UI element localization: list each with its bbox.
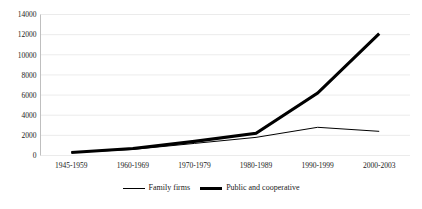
x-tick-labels: 1945-19591960-19691970-19791980-19891990… <box>55 161 396 170</box>
line-chart: 02000400060008000100001200014000 1945-19… <box>0 0 422 209</box>
x-tick-label: 1945-1959 <box>55 161 88 170</box>
gridlines <box>41 15 411 156</box>
legend-item-family-firms: Family firms <box>123 183 191 193</box>
series-line-public-and-cooperative <box>71 34 379 153</box>
x-tick-label: 1980-1989 <box>240 161 273 170</box>
x-tick-label: 1970-1979 <box>178 161 211 170</box>
y-tick-label: 14000 <box>18 10 37 19</box>
y-tick-label: 4000 <box>22 111 37 120</box>
legend-line-thick-icon <box>200 187 222 190</box>
legend-label-public-and-cooperative: Public and cooperative <box>226 183 299 193</box>
legend-label-family-firms: Family firms <box>149 183 191 193</box>
chart-legend: Family firms Public and cooperative <box>0 178 422 198</box>
series-lines <box>71 34 379 153</box>
y-tick-label: 2000 <box>22 131 37 140</box>
y-tick-label: 6000 <box>22 91 37 100</box>
y-tick-label: 12000 <box>18 30 37 39</box>
chart-canvas: 02000400060008000100001200014000 1945-19… <box>0 0 422 175</box>
y-tick-label: 8000 <box>22 71 37 80</box>
legend-line-thin-icon <box>123 188 145 189</box>
plot-area: 02000400060008000100001200014000 1945-19… <box>0 0 422 175</box>
legend-item-public-and-cooperative: Public and cooperative <box>200 183 299 193</box>
x-tick-label: 1990-1999 <box>301 161 334 170</box>
x-tick-label: 1960-1969 <box>117 161 150 170</box>
y-tick-label: 10000 <box>18 51 37 60</box>
y-tick-labels: 02000400060008000100001200014000 <box>18 10 37 160</box>
y-tick-label: 0 <box>33 151 37 160</box>
x-tick-label: 2000-2003 <box>363 161 396 170</box>
